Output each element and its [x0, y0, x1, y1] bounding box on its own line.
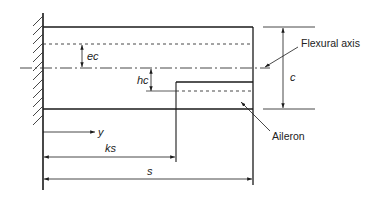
ec-label: ec [87, 50, 99, 62]
s-dimension: s [44, 165, 252, 179]
flexural-axis-callout: Flexural axis [265, 37, 360, 67]
aileron-callout: Aileron [241, 102, 305, 142]
aileron [176, 82, 253, 162]
fixed-wall [33, 13, 43, 190]
wall-hatching [33, 16, 43, 125]
s-label: s [147, 165, 153, 177]
y-axis-arrow: y [43, 126, 105, 138]
wing-planform [43, 27, 253, 185]
c-label: c [290, 71, 296, 83]
wing-aileron-diagram: ec hc c Flexural axis Aileron y ks s [0, 0, 376, 203]
y-label: y [97, 126, 105, 138]
ks-label: ks [105, 142, 117, 154]
hc-dimension: hc [137, 69, 176, 91]
hc-label: hc [137, 74, 149, 86]
ec-dimension: ec [82, 45, 99, 67]
flexural-axis-label: Flexural axis [301, 37, 360, 49]
aileron-label: Aileron [272, 130, 305, 142]
ks-dimension: ks [44, 142, 175, 157]
